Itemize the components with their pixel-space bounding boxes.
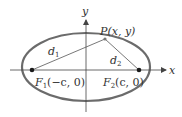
segment-d1	[32, 39, 105, 70]
focus-1-label: F1(−c, 0)	[34, 76, 85, 90]
point-p-label: P(x, y)	[99, 25, 135, 38]
distance-d2-label: d2	[110, 54, 122, 68]
focus-1-point	[30, 68, 35, 73]
x-axis-label: x	[169, 64, 176, 77]
distance-d1-label: d1	[48, 45, 60, 59]
y-axis-label: y	[81, 5, 89, 18]
ellipse-diagram: y x P(x, y) d1 d2 F1(−c, 0) F2(c, 0)	[0, 0, 182, 117]
focus-2-point	[137, 68, 142, 73]
focus-2-label: F2(c, 0)	[102, 76, 144, 90]
